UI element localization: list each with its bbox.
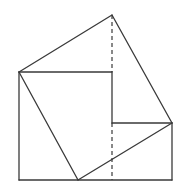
- segment-BC: [112, 15, 172, 123]
- solid-lines: [19, 15, 172, 180]
- segment-DA: [19, 72, 78, 180]
- segment-CD: [78, 123, 172, 180]
- segment-AB: [19, 15, 112, 72]
- pythagorean-diagram: [0, 0, 189, 192]
